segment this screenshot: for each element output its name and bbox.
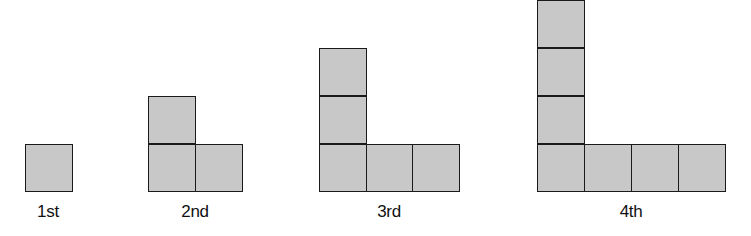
square [631,144,679,192]
square [148,96,196,144]
stage-label: 1st [37,202,59,222]
stage-label: 3rd [377,202,401,222]
square [319,144,367,192]
square [584,144,632,192]
square [319,48,367,96]
square [678,144,726,192]
square [537,48,585,96]
square [366,144,414,192]
stage-label: 2nd [181,202,208,222]
square [537,0,585,48]
square [148,144,196,192]
square [25,144,73,192]
square [319,96,367,144]
square [412,144,460,192]
stage-label: 4th [620,202,643,222]
square [537,144,585,192]
square [537,96,585,144]
square [195,144,243,192]
